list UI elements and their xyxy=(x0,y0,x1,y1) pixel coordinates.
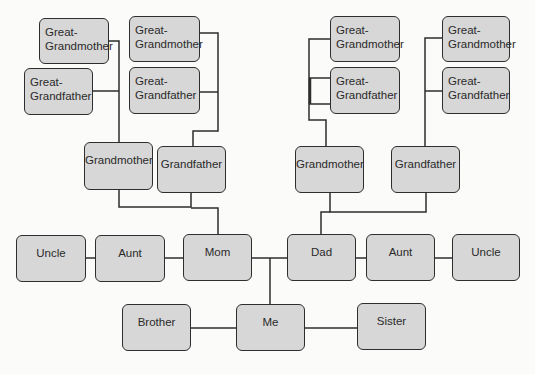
node-label: Great- xyxy=(448,23,509,37)
node-label: Great- xyxy=(45,25,108,39)
connector-ggm4-gf xyxy=(425,38,442,146)
node-great-grandfather: Great-Grandfather xyxy=(129,67,200,114)
node-label: Aunt xyxy=(367,245,434,259)
node-label: Grandfather xyxy=(30,89,92,103)
node-label: Grandmother xyxy=(85,153,152,167)
node-grandfather-paternal: Grandfather xyxy=(391,146,460,193)
node-label: Grandmother xyxy=(135,37,199,51)
node-label: Me xyxy=(237,315,304,329)
node-label: Great- xyxy=(336,74,399,88)
connector-ggm3-gm xyxy=(309,39,330,146)
node-great-grandfather: Great-Grandfather xyxy=(24,68,93,115)
node-dad: Dad xyxy=(287,234,356,281)
node-label: Grandmother xyxy=(296,157,363,171)
node-me: Me xyxy=(236,304,305,351)
node-aunt-maternal: Aunt xyxy=(95,235,165,282)
connector-to-dad xyxy=(321,212,330,234)
node-great-grandfather: Great-Grandfather xyxy=(442,67,510,114)
node-great-grandmother: Great-Grandmother xyxy=(39,18,109,64)
connector-gm-gf-paternal xyxy=(330,193,426,212)
node-label: Grandfather xyxy=(135,88,199,102)
node-uncle-paternal: Uncle xyxy=(452,234,520,281)
node-label: Great- xyxy=(448,74,509,88)
node-great-grandmother: Great-Grandmother xyxy=(129,16,200,62)
node-label: Great- xyxy=(135,74,199,88)
node-label: Uncle xyxy=(17,246,85,260)
node-brother: Brother xyxy=(122,304,191,351)
node-grandfather-maternal: Grandfather xyxy=(157,146,226,193)
node-grandmother-maternal: Grandmother xyxy=(84,142,153,190)
node-uncle-maternal: Uncle xyxy=(16,235,86,282)
node-aunt-paternal: Aunt xyxy=(366,234,435,281)
node-label: Aunt xyxy=(96,246,164,260)
node-label: Grandmother xyxy=(448,37,509,51)
node-label: Dad xyxy=(288,245,355,259)
node-label: Great- xyxy=(336,23,399,37)
node-great-grandfather: Great-Grandfather xyxy=(330,67,400,114)
node-label: Grandfather xyxy=(392,157,459,171)
node-label: Sister xyxy=(358,314,425,328)
node-label: Grandfather xyxy=(336,88,399,102)
node-label: Grandmother xyxy=(336,37,399,51)
node-label: Grandfather xyxy=(448,88,509,102)
node-label: Great- xyxy=(30,75,92,89)
node-great-grandmother: Great-Grandmother xyxy=(442,16,510,62)
node-grandmother-paternal: Grandmother xyxy=(295,146,364,193)
connector-to-mom xyxy=(191,208,218,234)
node-sister: Sister xyxy=(357,303,426,350)
node-label: Grandfather xyxy=(158,157,225,171)
node-label: Brother xyxy=(123,315,190,329)
node-label: Mom xyxy=(184,245,251,259)
node-label: Great- xyxy=(135,23,199,37)
node-mom: Mom xyxy=(183,234,252,281)
node-great-grandmother: Great-Grandmother xyxy=(330,16,400,62)
node-label: Uncle xyxy=(453,245,519,259)
node-label: Grandmother xyxy=(45,39,108,53)
